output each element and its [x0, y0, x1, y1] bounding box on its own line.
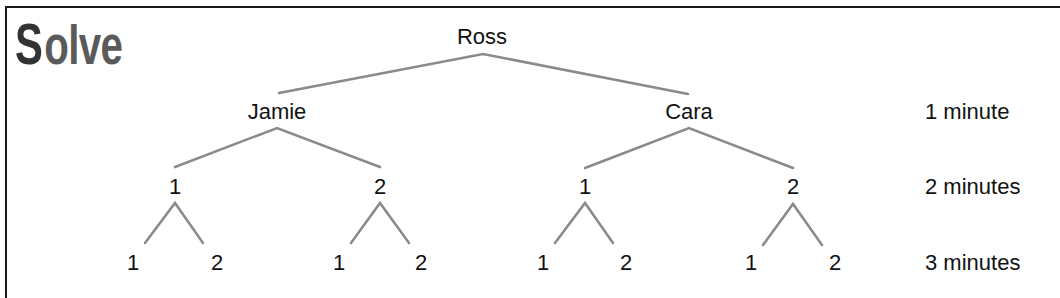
node-leaf: 2 [415, 251, 427, 275]
node-leaf: 1 [537, 251, 549, 275]
node-leaf: 1 [745, 251, 757, 275]
node-level2: 2 [787, 175, 799, 199]
node-level2: 1 [579, 175, 591, 199]
tree-diagram-lines [0, 0, 1060, 298]
node-level1-jamie: Jamie [248, 100, 307, 124]
node-leaf: 2 [829, 251, 841, 275]
node-root: Ross [457, 25, 507, 49]
branch-1a [145, 203, 203, 243]
node-leaf: 2 [620, 251, 632, 275]
branch-2b [763, 204, 822, 245]
time-label-level3: 3 minutes [925, 251, 1020, 275]
time-label-level1: 1 minute [925, 100, 1009, 124]
node-level2: 2 [374, 175, 386, 199]
node-level1-cara: Cara [665, 100, 713, 124]
root-branches [279, 54, 688, 94]
node-level2: 1 [169, 175, 181, 199]
cara-branches [585, 128, 793, 168]
node-leaf: 2 [211, 251, 223, 275]
time-label-level2: 2 minutes [925, 175, 1020, 199]
node-leaf: 1 [333, 251, 345, 275]
branch-1b [555, 203, 613, 243]
jamie-branches [175, 128, 380, 167]
node-leaf: 1 [127, 251, 139, 275]
branch-2a [351, 203, 409, 243]
